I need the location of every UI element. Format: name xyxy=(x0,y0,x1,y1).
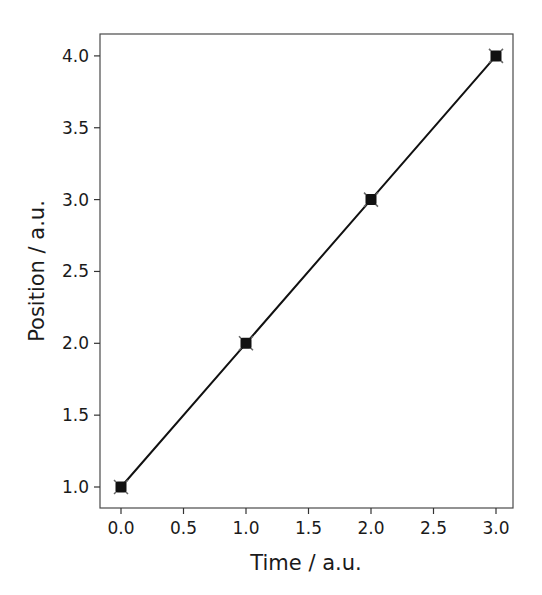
x-tick-label: 2.5 xyxy=(420,518,447,538)
plot-area xyxy=(100,34,513,508)
y-tick-label: 1.0 xyxy=(62,477,89,497)
data-point-marker xyxy=(239,336,253,350)
data-point-marker xyxy=(489,49,503,63)
data-point-marker xyxy=(114,480,128,494)
data-point-marker xyxy=(364,193,378,207)
x-tick-label: 3.0 xyxy=(482,518,509,538)
y-tick-label: 2.5 xyxy=(62,261,89,281)
y-tick-label: 1.5 xyxy=(62,405,89,425)
x-tick-label: 0.0 xyxy=(107,518,134,538)
y-tick-label: 4.0 xyxy=(62,46,89,66)
y-tick-label: 2.0 xyxy=(62,333,89,353)
x-tick-label: 0.5 xyxy=(170,518,197,538)
y-tick-label: 3.0 xyxy=(62,190,89,210)
y-axis-ticks: 1.01.52.02.53.03.54.0 xyxy=(62,46,100,497)
y-axis-label: Position / a.u. xyxy=(25,200,49,342)
line-chart: 0.00.51.01.52.02.53.0 1.01.52.02.53.03.5… xyxy=(0,0,542,595)
x-tick-label: 1.5 xyxy=(295,518,322,538)
x-tick-label: 2.0 xyxy=(357,518,384,538)
y-tick-label: 3.5 xyxy=(62,118,89,138)
x-axis-ticks: 0.00.51.01.52.02.53.0 xyxy=(107,508,509,538)
x-tick-label: 1.0 xyxy=(232,518,259,538)
x-axis-label: Time / a.u. xyxy=(249,551,361,575)
